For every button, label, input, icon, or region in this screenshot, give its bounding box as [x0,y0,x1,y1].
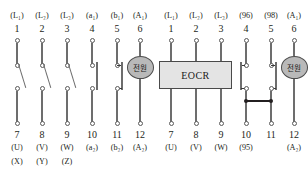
contact-no-top-4 [90,63,95,68]
bottom-label-8: (V) [29,144,55,152]
eocr-terminal-10 [244,121,249,126]
bottom-label2-9: (Z) [54,158,80,166]
bottom-label-9: (W) [54,144,80,152]
eocr-bottom-number-7: 7 [158,130,184,140]
eocr-contact-stub-top-4 [241,65,245,66]
bottom-label2-7: (X) [4,158,30,166]
terminal-11 [115,121,120,126]
eocr-bottom-number-12: 12 [281,130,307,140]
lead-8-bottom [41,91,42,122]
eocr-lead-4-top [245,43,246,64]
top-number-6: 6 [127,24,153,34]
lead-12-bottom [139,79,140,122]
eocr-lead-2-top [195,43,196,61]
eocr-bottom-number-8: 8 [183,130,209,140]
lead-4-top [91,43,92,64]
eocr-lead-3-top [220,43,221,61]
eocr-lead-6-top [293,43,294,56]
top-number-2: 2 [29,24,55,34]
top-number-3: 3 [54,24,80,34]
lead-5-top [116,43,117,64]
eocr-lead-10-bottom [245,91,246,122]
lead-9-bottom [66,91,67,122]
eocr-top-number-1: 1 [158,24,184,34]
eocr-top-number-4: 4 [233,24,259,34]
power-coil-right: 전원 [281,56,308,79]
coil-label: 전원 [133,62,147,73]
top-label-6: (A₁) [127,12,153,20]
bottom-number-12: 12 [127,130,153,140]
bottom-number-8: 8 [29,130,55,140]
eocr-diagram: (L₁) (L₂) (L₃) (96) (98) (A₁) 1 2 3 4 5 … [154,0,308,184]
lead-3-top [66,43,67,64]
bottom-label-12: (A₂) [127,144,153,152]
eocr-top-number-6: 6 [281,24,307,34]
power-coil-left: 전원 [127,56,154,79]
junction-dot-11 [269,99,273,103]
switch-blade-1 [18,64,27,88]
top-label-3: (L₃) [54,12,80,20]
bottom-label2-8: (Y) [29,158,55,166]
eocr-lead-7-bottom [170,89,171,122]
eocr-bottom-number-9: 9 [208,130,234,140]
eocr-lead-8-bottom [195,89,196,122]
lead-6-top [139,43,140,56]
switch-blade-3 [68,64,77,88]
eocr-terminal-9 [219,121,224,126]
bottom-label-7: (U) [4,144,30,152]
eocr-lead-12-bottom [293,79,294,122]
lead-1-top [16,43,17,64]
eocr-terminal-12 [292,121,297,126]
eocr-contact-bar-4 [240,62,242,90]
eocr-lead-1-top [170,43,171,61]
eocr-terminal-7 [169,121,174,126]
terminal-7 [15,121,20,126]
coil-label: 전원 [287,62,301,73]
eocr-terminal-8 [194,121,199,126]
lead-11-bottom [116,91,117,122]
eocr-contact-bar-5 [275,62,277,90]
eocr-lead-11-bottom [270,91,271,122]
eocr-top-number-3: 3 [208,24,234,34]
bottom-number-7: 7 [4,130,30,140]
eocr-lead-9-bottom [220,89,221,122]
top-number-4: 4 [79,24,105,34]
bottom-label-10: (a₂) [79,144,105,152]
eocr-body-label: EOCR [181,70,209,81]
terminal-9 [65,121,70,126]
top-label-4: (a₁) [79,12,105,20]
bottom-number-9: 9 [54,130,80,140]
eocr-top-label-4: (96) [233,12,259,20]
switch-blade-2 [43,64,52,88]
contact-no-bar-4 [96,62,98,90]
eocr-top-number-2: 2 [183,24,209,34]
bottom-number-10: 10 [79,130,105,140]
terminal-10 [90,121,95,126]
eocr-top-label-6: (A₁) [281,12,307,20]
top-label-2: (L₂) [29,12,55,20]
eocr-lead-5-top [270,43,271,64]
top-label-1: (L₁) [4,12,30,20]
eocr-bottom-number-10: 10 [233,130,259,140]
eocr-body: EOCR [159,61,232,89]
junction-dot-10 [244,99,248,103]
jumper-bar-10-11 [245,100,271,102]
eocr-bottom-label-8: (V) [183,144,209,152]
eocr-top-label-1: (L₁) [158,12,184,20]
eocr-top-label-2: (L₂) [183,12,209,20]
eocr-bottom-label-9: (W) [208,144,234,152]
eocr-bottom-label-7: (U) [158,144,184,152]
terminal-8 [40,121,45,126]
eocr-bottom-label-12: (A₂) [281,144,307,152]
top-number-1: 1 [4,24,30,34]
eocr-bottom-label-10: (95) [233,144,259,152]
lead-2-top [41,43,42,64]
terminal-12 [138,121,143,126]
lead-7-bottom [16,91,17,122]
eocr-top-label-3: (L₃) [208,12,234,20]
contact-nc-bar-5 [121,62,123,90]
eocr-terminal-11 [269,121,274,126]
magnetic-contactor-diagram: (L₁) (L₂) (L₃) (a₁) (b₁) (A₁) 1 2 3 4 5 … [0,0,154,184]
lead-10-bottom [91,91,92,122]
